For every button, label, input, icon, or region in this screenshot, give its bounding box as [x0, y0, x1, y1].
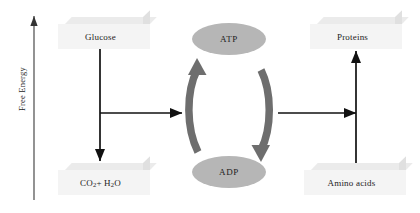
curved-arrow-up-icon — [188, 58, 207, 152]
diagram-vector-layer — [0, 0, 420, 213]
energy-coupling-diagram: Free Energy Glucose CO2 + H2O Proteins A… — [0, 0, 420, 213]
curved-arrow-down-icon — [252, 70, 271, 162]
